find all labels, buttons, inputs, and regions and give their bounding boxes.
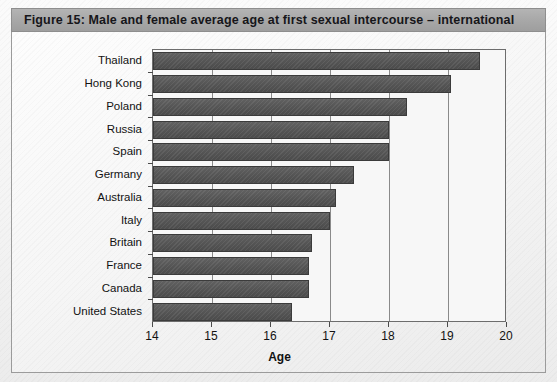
bar-row <box>153 52 505 70</box>
y-axis-tick <box>148 163 153 164</box>
y-axis-tick <box>148 208 153 209</box>
y-axis-label-germany: Germany <box>95 168 142 180</box>
x-axis-label-16: 16 <box>263 329 276 343</box>
x-axis-title-text: Age <box>268 350 291 364</box>
bar-row <box>153 75 505 93</box>
bar-poland <box>153 98 407 116</box>
bar-row <box>153 234 505 252</box>
bar-row <box>153 98 505 116</box>
y-axis-tick <box>148 299 153 300</box>
y-axis-labels: ThailandHong KongPolandRussiaSpainGerman… <box>0 49 148 322</box>
bar-spain <box>153 143 389 161</box>
bar-united-states <box>153 303 292 321</box>
y-axis-tick <box>148 72 153 73</box>
x-axis-label-19: 19 <box>440 329 453 343</box>
y-axis-label-italy: Italy <box>121 214 142 226</box>
y-axis-label-australia: Australia <box>97 191 142 203</box>
y-axis-label-hong-kong: Hong Kong <box>84 77 142 89</box>
plot-inner <box>153 50 505 321</box>
figure-caption-bar: Figure 15: Male and female average age a… <box>11 8 546 32</box>
y-axis-label-thailand: Thailand <box>98 54 142 66</box>
bar-row <box>153 166 505 184</box>
x-axis-label-15: 15 <box>204 329 217 343</box>
bar-australia <box>153 189 336 207</box>
y-axis-tick <box>148 254 153 255</box>
x-axis-tick-20 <box>506 322 507 327</box>
figure-caption-text: Figure 15: Male and female average age a… <box>12 13 514 27</box>
bar-britain <box>153 234 312 252</box>
x-axis-title: Age <box>0 350 557 364</box>
y-axis-tick <box>148 186 153 187</box>
bar-italy <box>153 212 330 230</box>
y-axis-tick <box>148 231 153 232</box>
bar-row <box>153 280 505 298</box>
y-axis-label-france: France <box>106 259 142 271</box>
y-axis-tick <box>148 95 153 96</box>
x-axis-tick-17 <box>329 322 330 327</box>
bar-row <box>153 189 505 207</box>
x-axis-label-17: 17 <box>322 329 335 343</box>
y-axis-tick <box>148 117 153 118</box>
y-axis-label-russia: Russia <box>107 123 142 135</box>
bar-canada <box>153 280 309 298</box>
bar-row <box>153 303 505 321</box>
y-axis-label-britain: Britain <box>109 236 142 248</box>
x-axis-tick-19 <box>447 322 448 327</box>
plot-area <box>152 49 506 322</box>
bar-germany <box>153 166 354 184</box>
x-axis-tick-14 <box>152 322 153 327</box>
x-axis-label-14: 14 <box>145 329 158 343</box>
y-axis-tick <box>148 140 153 141</box>
bar-row <box>153 212 505 230</box>
bar-row <box>153 143 505 161</box>
y-axis-label-canada: Canada <box>102 282 142 294</box>
x-axis-tick-16 <box>270 322 271 327</box>
bar-hong-kong <box>153 75 451 93</box>
y-axis-tick <box>148 277 153 278</box>
y-axis-label-united-states: United States <box>73 305 142 317</box>
bar-row <box>153 121 505 139</box>
bar-row <box>153 257 505 275</box>
x-axis-tick-18 <box>388 322 389 327</box>
y-axis-label-spain: Spain <box>113 145 142 157</box>
y-axis-label-poland: Poland <box>106 100 142 112</box>
figure-container: Figure 15: Male and female average age a… <box>0 0 557 382</box>
bar-thailand <box>153 52 480 70</box>
x-axis-tick-15 <box>211 322 212 327</box>
bar-france <box>153 257 309 275</box>
bar-russia <box>153 121 389 139</box>
x-axis-label-20: 20 <box>499 329 512 343</box>
x-axis-label-18: 18 <box>381 329 394 343</box>
